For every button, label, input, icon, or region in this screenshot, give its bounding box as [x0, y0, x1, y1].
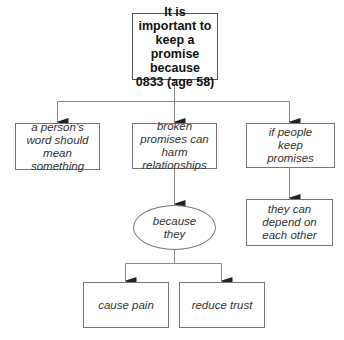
node-label: broken promises can harm relationships — [135, 120, 214, 172]
node-cause-pain: cause pain — [83, 282, 169, 328]
node-label: cause pain — [98, 299, 154, 312]
node-if-people-keep: if people keep promises — [246, 123, 335, 168]
node-label: a person's word should mean something — [18, 121, 97, 173]
connector-label: because they — [152, 215, 197, 241]
node-reduce-trust: reduce trust — [179, 282, 265, 328]
node-depend-on-each-other: they can depend on each other — [246, 199, 333, 246]
root-node: It is important to keep a promise becaus… — [132, 13, 218, 80]
connector-because-they: because they — [133, 205, 216, 250]
node-broken-promises: broken promises can harm relationships — [132, 123, 217, 169]
root-node-label: It is important to keep a promise becaus… — [135, 5, 215, 89]
node-persons-word: a person's word should mean something — [15, 123, 100, 170]
node-label: reduce trust — [192, 299, 253, 312]
node-label: they can depend on each other — [249, 203, 330, 242]
node-label: if people keep promises — [261, 126, 320, 165]
